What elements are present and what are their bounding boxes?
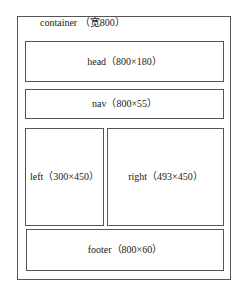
nav-label: nav（800×55） [26,98,223,110]
left-box: left（300×450） [25,128,104,226]
footer-box: footer（800×60） [26,229,224,271]
right-box: right（493×450） [107,128,224,226]
container-label: container （宽800） [40,17,125,29]
left-label: left（300×450） [26,171,103,183]
right-label: right（493×450） [108,171,223,183]
head-label: head（800×180） [26,56,223,68]
nav-box: nav（800×55） [25,89,224,119]
footer-label: footer（800×60） [27,244,223,256]
head-box: head（800×180） [25,41,224,82]
